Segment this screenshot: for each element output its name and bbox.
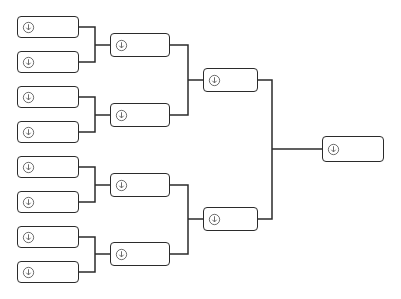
circled-down-arrow-icon (22, 196, 35, 209)
bracket-slot-r2-s4[interactable] (110, 242, 170, 266)
circled-down-arrow-icon (22, 91, 35, 104)
bracket-slot-r2-s2[interactable] (110, 103, 170, 127)
circled-down-arrow-icon (115, 109, 128, 122)
bracket-slot-r1-s3[interactable] (17, 86, 79, 108)
bracket-slot-r3-s1[interactable] (203, 68, 258, 92)
circled-down-arrow-icon (22, 231, 35, 244)
circled-down-arrow-icon (22, 161, 35, 174)
tournament-bracket (0, 0, 401, 299)
bracket-slot-r1-s7[interactable] (17, 226, 79, 248)
circled-down-arrow-icon (22, 126, 35, 139)
bracket-slot-r1-s4[interactable] (17, 121, 79, 143)
bracket-slot-r2-s3[interactable] (110, 173, 170, 197)
bracket-slot-r1-s8[interactable] (17, 261, 79, 283)
connector-bracket (79, 167, 95, 202)
connector-bracket (170, 45, 188, 115)
connector-bracket (79, 97, 95, 132)
bracket-slot-r1-s1[interactable] (17, 16, 79, 38)
circled-down-arrow-icon (115, 179, 128, 192)
circled-down-arrow-icon (208, 213, 221, 226)
connector-bracket (258, 80, 272, 219)
circled-down-arrow-icon (22, 56, 35, 69)
circled-down-arrow-icon (22, 21, 35, 34)
bracket-slot-r3-s2[interactable] (203, 207, 258, 231)
bracket-slot-r2-s1[interactable] (110, 33, 170, 57)
connector-bracket (79, 27, 95, 62)
circled-down-arrow-icon (115, 248, 128, 261)
circled-down-arrow-icon (327, 143, 340, 156)
circled-down-arrow-icon (115, 39, 128, 52)
circled-down-arrow-icon (22, 266, 35, 279)
bracket-slot-r4-s1[interactable] (322, 136, 384, 162)
connector-bracket (170, 185, 188, 254)
bracket-slot-r1-s6[interactable] (17, 191, 79, 213)
circled-down-arrow-icon (208, 74, 221, 87)
connector-bracket (79, 237, 95, 272)
bracket-slot-r1-s2[interactable] (17, 51, 79, 73)
bracket-slot-r1-s5[interactable] (17, 156, 79, 178)
